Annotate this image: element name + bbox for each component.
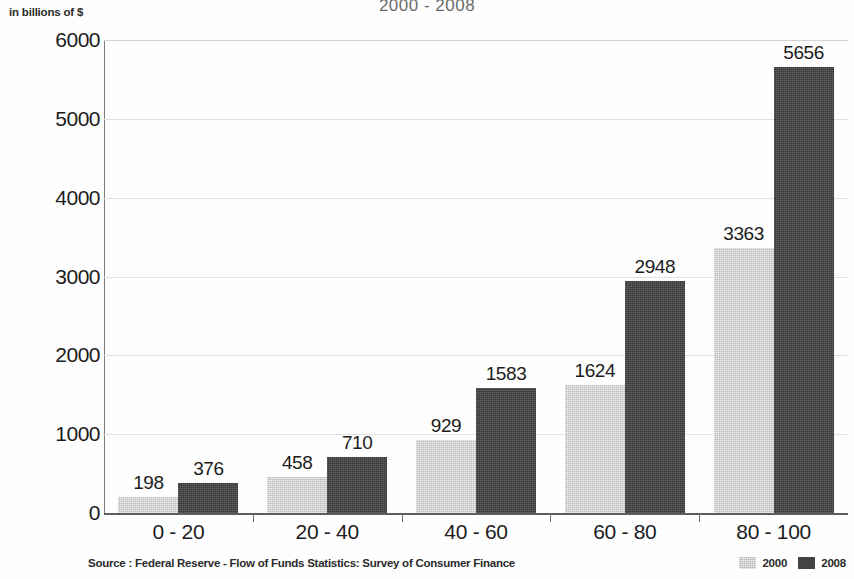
- x-axis-category-label: 80 - 100: [736, 520, 811, 544]
- chart-legend: 2000 2008: [739, 557, 846, 569]
- plot-area: 19837645871092915831624294833635656: [104, 40, 848, 513]
- y-axis-tick-label: 2000: [4, 343, 100, 367]
- bar-value-label: 1624: [574, 360, 615, 382]
- x-axis-tick: [550, 513, 551, 522]
- bar-value-label: 710: [342, 432, 373, 454]
- bar-value-label: 1583: [486, 363, 527, 385]
- bar-2008-40-60[interactable]: 1583: [476, 388, 536, 513]
- bar-2008-80-100[interactable]: 5656: [774, 67, 834, 513]
- bar-2000-20-40[interactable]: 458: [267, 477, 327, 513]
- legend-label-2000: 2000: [762, 557, 787, 569]
- legend-label-2008: 2008: [821, 557, 846, 569]
- bar-value-label: 5656: [783, 42, 824, 64]
- x-axis-category-label: 40 - 60: [444, 520, 507, 544]
- x-axis-tick: [253, 513, 254, 522]
- bar-group: 198376: [118, 40, 238, 513]
- x-axis-line: [104, 513, 848, 515]
- bar-group: 9291583: [416, 40, 536, 513]
- bar-2000-80-100[interactable]: 3363: [714, 248, 774, 513]
- y-axis-tick-label: 5000: [4, 107, 100, 131]
- bar-value-label: 376: [193, 458, 224, 480]
- x-axis-tick: [699, 513, 700, 522]
- legend-swatch-icon-2008: [798, 557, 815, 569]
- bar-value-label: 2948: [634, 256, 675, 278]
- bar-2000-60-80[interactable]: 1624: [565, 385, 625, 513]
- x-axis-category-label: 60 - 80: [593, 520, 656, 544]
- x-axis-category-label: 0 - 20: [152, 520, 204, 544]
- bar-value-label: 3363: [723, 223, 764, 245]
- bar-group: 16242948: [565, 40, 685, 513]
- x-axis-category-label: 20 - 40: [296, 520, 359, 544]
- y-axis-tick-label: 4000: [4, 186, 100, 210]
- chart-title: 2000 - 2008: [0, 0, 854, 16]
- bar-value-label: 929: [431, 415, 462, 437]
- x-axis-tick: [402, 513, 403, 522]
- bar-group: 458710: [267, 40, 387, 513]
- y-axis-tick-label: 6000: [4, 28, 100, 52]
- y-axis-tick-label: 3000: [4, 265, 100, 289]
- legend-item-2000[interactable]: 2000: [739, 557, 787, 569]
- bar-2000-0-20[interactable]: 198: [118, 497, 178, 513]
- bar-value-label: 458: [282, 452, 313, 474]
- bar-group: 33635656: [714, 40, 834, 513]
- source-note: Source : Federal Reserve - Flow of Funds…: [88, 557, 515, 569]
- bar-2000-40-60[interactable]: 929: [416, 440, 476, 513]
- legend-swatch-icon-2000: [739, 557, 756, 569]
- bar-2008-20-40[interactable]: 710: [327, 457, 387, 513]
- legend-item-2008[interactable]: 2008: [798, 557, 846, 569]
- bar-2008-0-20[interactable]: 376: [178, 483, 238, 513]
- y-axis-tick-label: 1000: [4, 422, 100, 446]
- bar-chart: 2000 - 2008 in billions of $ 01000200030…: [0, 0, 854, 579]
- y-axis-tick-labels: 0100020003000400050006000: [0, 0, 100, 579]
- y-axis-tick-label: 0: [4, 501, 100, 525]
- bar-2008-60-80[interactable]: 2948: [625, 281, 685, 513]
- bar-value-label: 198: [133, 472, 164, 494]
